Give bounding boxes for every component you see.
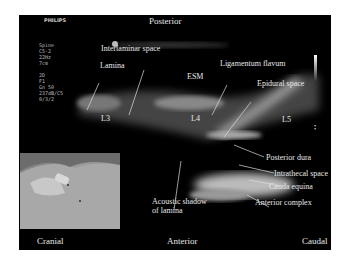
grayscale-bar bbox=[314, 55, 317, 81]
label-esm: ESM bbox=[187, 73, 203, 81]
label-interlaminar-space: Interlaminar space bbox=[101, 45, 160, 53]
label-l5: L5 bbox=[282, 116, 291, 124]
label-l3: L3 bbox=[101, 115, 110, 123]
orientation-caudal: Caudal bbox=[302, 237, 328, 246]
probe-position-photo bbox=[20, 153, 120, 229]
label-cauda-equina: Cauda equina bbox=[269, 183, 313, 191]
scanner-settings: Spine C5-2 22Hz 7cm 2D F1 Gn 50 237dB/C5… bbox=[39, 42, 63, 102]
label-ligamentum-flavum: Ligamentum flavum bbox=[220, 60, 286, 68]
orientation-posterior: Posterior bbox=[149, 17, 182, 26]
brand-logo: PHILIPS bbox=[44, 17, 66, 23]
ultrasound-panel: PHILIPS Posterior Spine C5-2 22Hz 7cm 2D… bbox=[19, 15, 331, 250]
setting-line: 0/3/2 bbox=[39, 96, 63, 102]
label-l4: L4 bbox=[191, 115, 200, 123]
label-epidural-space: Epidural space bbox=[257, 80, 304, 88]
label-posterior-dura: Posterior dura bbox=[266, 154, 311, 162]
label-acoustic-shadow: Acoustic shadow bbox=[152, 198, 207, 206]
label-lamina: Lamina bbox=[100, 62, 124, 70]
label-acoustic-shadow-2: of lamina bbox=[152, 207, 182, 215]
label-intrathecal-space: Intrathecal space bbox=[274, 170, 328, 178]
focus-marker-icon: •• bbox=[314, 125, 316, 131]
orientation-cranial: Cranial bbox=[37, 237, 64, 246]
orientation-anterior: Anterior bbox=[167, 237, 198, 246]
label-anterior-complex: Anterior complex bbox=[255, 199, 312, 207]
